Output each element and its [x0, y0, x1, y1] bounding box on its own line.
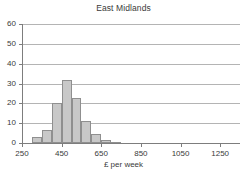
y-tick-mark — [19, 44, 22, 45]
y-tick-mark — [19, 123, 22, 124]
x-tick-mark — [62, 144, 63, 147]
x-tick-label: 1050 — [166, 149, 196, 158]
histogram-bar — [72, 98, 82, 143]
y-tick-label: 30 — [0, 80, 16, 88]
x-tick-label: 850 — [126, 149, 156, 158]
y-tick-label: 60 — [0, 20, 16, 28]
x-axis-label: £ per week — [0, 160, 247, 169]
histogram-bar — [42, 130, 52, 143]
gridline — [22, 84, 240, 85]
x-tick-label: 250 — [7, 149, 37, 158]
x-tick-label: 1250 — [205, 149, 235, 158]
chart-title: East Midlands — [0, 3, 247, 13]
histogram-bar — [62, 80, 72, 143]
y-tick-label: 20 — [0, 99, 16, 107]
gridline — [22, 64, 240, 65]
x-axis-line — [22, 143, 240, 144]
y-tick-mark — [19, 64, 22, 65]
plot-area — [22, 24, 240, 143]
x-tick-mark — [22, 144, 23, 147]
y-axis-line — [22, 24, 23, 144]
histogram-bar — [52, 103, 62, 143]
y-tick-mark — [19, 103, 22, 104]
x-tick-mark — [220, 144, 221, 147]
x-tick-mark — [141, 144, 142, 147]
y-tick-label: 40 — [0, 60, 16, 68]
histogram-bar — [91, 134, 101, 143]
histogram-chart: East Midlands 0102030405060 250450650850… — [0, 0, 247, 174]
gridline — [22, 44, 240, 45]
y-tick-label: 0 — [0, 139, 16, 147]
x-tick-mark — [181, 144, 182, 147]
y-tick-mark — [19, 84, 22, 85]
y-tick-label: 10 — [0, 119, 16, 127]
x-tick-label: 450 — [47, 149, 77, 158]
x-tick-mark — [101, 144, 102, 147]
histogram-bar — [81, 121, 91, 143]
y-tick-label: 50 — [0, 40, 16, 48]
y-tick-mark — [19, 24, 22, 25]
x-tick-label: 650 — [86, 149, 116, 158]
gridline — [22, 24, 240, 25]
